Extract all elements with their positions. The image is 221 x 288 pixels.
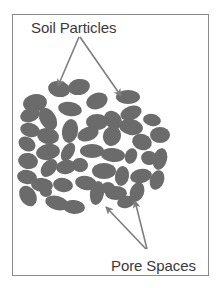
soil-diagram: Soil Particles Pore Spaces (0, 0, 221, 288)
soil-particle (80, 144, 104, 158)
pore-spaces-label: Pore Spaces (111, 258, 196, 273)
soil-particle (116, 90, 140, 104)
soil-particle (92, 163, 116, 179)
soil-particle (67, 77, 91, 97)
soil-particle (150, 147, 169, 172)
soil-particle (35, 142, 61, 162)
soil-particle (60, 118, 80, 144)
soil-particles-label: Soil Particles (31, 20, 116, 35)
soil-particle (84, 90, 110, 113)
soil-particle (101, 182, 115, 194)
diagram-canvas (0, 0, 221, 288)
soil-particle (40, 187, 52, 197)
soil-particle (113, 165, 130, 187)
pore-arrow-left (106, 207, 146, 249)
soil-particle (57, 100, 83, 118)
soil-particle (36, 126, 60, 146)
soil-particle (142, 113, 162, 128)
soil-particle (150, 127, 170, 143)
soil-particle (129, 167, 153, 185)
soil-particle (100, 147, 125, 163)
soil-particle (52, 176, 74, 193)
soil-particle (123, 146, 140, 165)
pore-arrow-right (135, 201, 147, 249)
soil-particle (17, 151, 39, 170)
soil-arrow-left (58, 37, 79, 86)
soil-particles-group (16, 77, 170, 215)
